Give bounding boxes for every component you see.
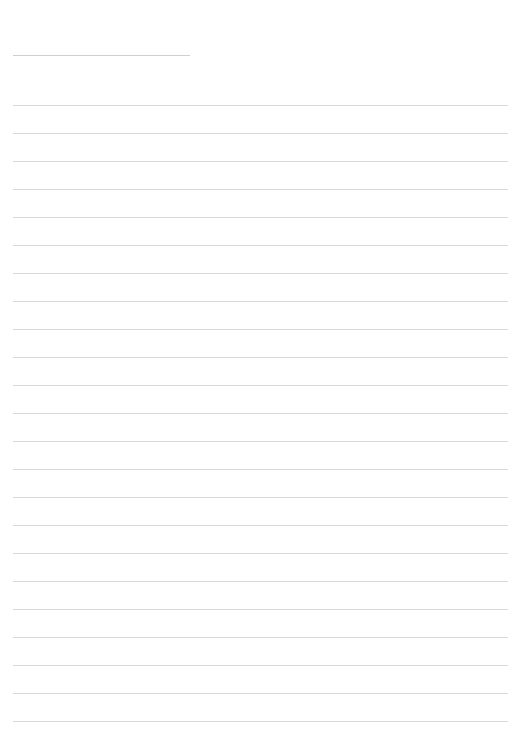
writing-line[interactable]	[13, 161, 508, 162]
writing-line[interactable]	[13, 133, 508, 134]
writing-line[interactable]	[13, 189, 508, 190]
writing-line[interactable]	[13, 609, 508, 610]
header-field-rule[interactable]	[13, 55, 190, 56]
writing-line[interactable]	[13, 497, 508, 498]
writing-line[interactable]	[13, 273, 508, 274]
writing-line[interactable]	[13, 245, 508, 246]
writing-line[interactable]	[13, 721, 508, 722]
writing-line[interactable]	[13, 469, 508, 470]
writing-line[interactable]	[13, 581, 508, 582]
writing-line[interactable]	[13, 217, 508, 218]
writing-line[interactable]	[13, 553, 508, 554]
writing-line[interactable]	[13, 525, 508, 526]
writing-line[interactable]	[13, 693, 508, 694]
writing-line[interactable]	[13, 301, 508, 302]
writing-line[interactable]	[13, 665, 508, 666]
writing-line[interactable]	[13, 105, 508, 106]
writing-line[interactable]	[13, 413, 508, 414]
writing-line[interactable]	[13, 637, 508, 638]
lined-paper-page: Lined Paper Template	[0, 0, 522, 755]
writing-line[interactable]	[13, 357, 508, 358]
writing-line[interactable]	[13, 385, 508, 386]
writing-line[interactable]	[13, 441, 508, 442]
writing-line[interactable]	[13, 329, 508, 330]
